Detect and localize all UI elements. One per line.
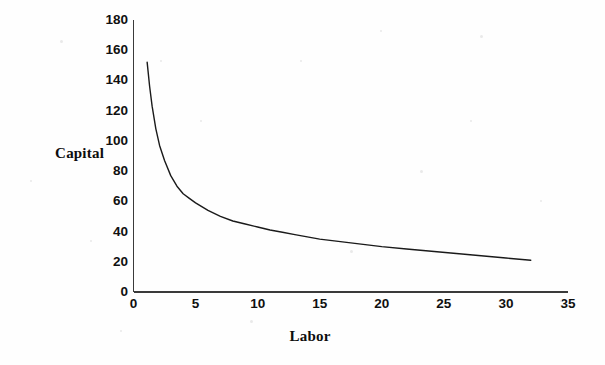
series-line: [147, 62, 531, 260]
series-group: [147, 62, 531, 260]
chart-container: Capital 020406080100120140160180 0510152…: [0, 0, 605, 365]
axis-lines: [134, 20, 569, 292]
plot-area: [0, 0, 605, 365]
